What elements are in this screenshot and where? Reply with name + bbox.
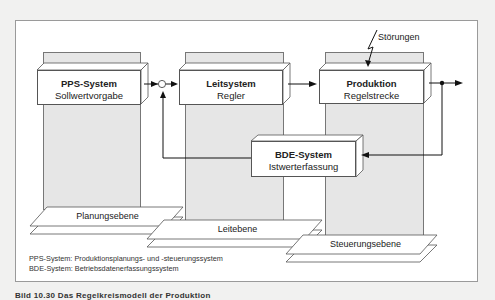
legend-line-pps: PPS-System: Produktionsplanungs- und -st…: [29, 254, 223, 264]
block-leitsystem: Leitsystem Regler: [179, 70, 283, 105]
figure-caption: Bild 10.30 Das Regelkreismodell der Prod…: [15, 291, 211, 300]
block-subtitle: Regler: [180, 90, 282, 102]
block-bde-system: BDE-System Istwerterfassung: [251, 141, 356, 177]
block-pps-system: PPS-System Sollwertvorgabe: [37, 70, 141, 105]
block-title: PPS-System: [38, 78, 140, 90]
block-produktion: Produktion Regelstrecke: [319, 70, 424, 104]
block-subtitle: Istwerterfassung: [252, 161, 355, 173]
block-title: BDE-System: [252, 149, 355, 161]
block-title: Leitsystem: [180, 78, 282, 90]
legend: PPS-System: Produktionsplanungs- und -st…: [29, 254, 223, 274]
legend-line-bde: BDE-System: Betriebsdatenerfassungssyste…: [29, 264, 223, 274]
block-subtitle: Sollwertvorgabe: [38, 90, 140, 102]
block-subtitle: Regelstrecke: [320, 90, 423, 102]
block-title: Produktion: [320, 78, 423, 90]
disturbance-label: Störungen: [378, 32, 420, 42]
